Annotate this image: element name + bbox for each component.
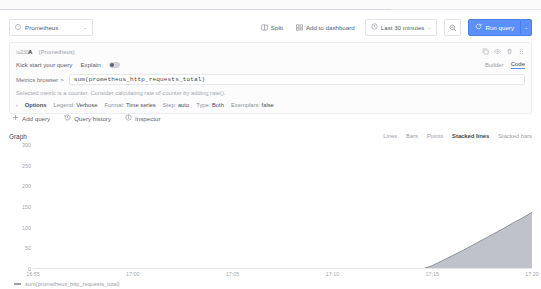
explain-toggle[interactable] xyxy=(109,62,120,68)
option-type-key: Type: xyxy=(196,102,210,108)
hide-query-icon[interactable] xyxy=(494,48,501,55)
add-to-dashboard-label: Add to dashboard xyxy=(306,24,355,31)
query-header-row: \u2304 A (Prometheus) xyxy=(16,47,525,56)
option-type-value: Both xyxy=(212,102,224,108)
add-query-label: Add query xyxy=(22,115,50,122)
y-axis-tick: 250 xyxy=(22,163,31,169)
option-step: Step: auto xyxy=(163,102,189,108)
clock-icon xyxy=(371,23,378,31)
tab-code[interactable]: Code xyxy=(511,61,525,69)
zoom-out-button[interactable] xyxy=(444,19,461,36)
run-query-label: Run query xyxy=(485,24,514,31)
query-datasource-label: (Prometheus) xyxy=(38,49,74,55)
option-exemplars-value: false xyxy=(262,102,274,108)
inspector-button[interactable]: Inspector xyxy=(125,114,160,122)
y-axis-tick: 100 xyxy=(22,225,31,231)
metrics-browser-button[interactable]: Metrics browser > xyxy=(16,74,64,85)
options-toggle-label[interactable]: Options xyxy=(25,102,47,108)
run-query-group: Run query ⌄ xyxy=(468,19,532,36)
x-axis-tick: 16:55 xyxy=(26,271,40,277)
query-expression-row: Metrics browser > sum(prometheus_http_re… xyxy=(16,74,525,85)
chevron-down-icon: ⌄ xyxy=(524,24,528,30)
split-icon xyxy=(261,24,268,31)
chevron-down-icon: ⌄ xyxy=(427,24,431,30)
dashboard-icon xyxy=(296,24,303,31)
datasource-picker[interactable]: Prometheus ⌄ xyxy=(9,19,93,36)
query-actions-row: Add query Query history Inspector xyxy=(12,114,160,122)
explore-page: Prometheus ⌄ Split Add to xyxy=(0,0,541,289)
chevron-right-icon: > xyxy=(60,77,64,83)
drag-handle-icon[interactable] xyxy=(518,48,525,55)
x-axis-tick: 17:20 xyxy=(525,271,539,277)
duplicate-query-icon[interactable] xyxy=(482,48,489,55)
plus-icon xyxy=(12,114,19,122)
option-format-key: Format: xyxy=(104,102,124,108)
chrome-accent-line xyxy=(0,9,390,10)
query-history-label: Query history xyxy=(74,115,111,122)
display-mode-stacked-lines[interactable]: Stacked lines xyxy=(452,133,489,139)
editor-mode-tabs: Builder Code xyxy=(485,61,525,69)
graph-plot-area: 300250200150100500 xyxy=(9,145,532,269)
info-icon xyxy=(125,114,132,122)
option-type: Type: Both xyxy=(196,102,224,108)
option-exemplars: Exemplars: false xyxy=(231,102,274,108)
history-icon xyxy=(64,114,71,122)
refresh-icon xyxy=(475,23,482,31)
option-step-key: Step: xyxy=(163,102,177,108)
x-axis-tick: 17:15 xyxy=(425,271,439,277)
graph-legend[interactable]: sum(prometheus_http_requests_total) xyxy=(14,281,532,287)
datasource-name: Prometheus xyxy=(25,24,58,31)
query-mode-row: Kick start your query Explain Builder Co… xyxy=(16,60,525,69)
y-axis-tick: 150 xyxy=(22,204,31,210)
option-legend-key: Legend: xyxy=(54,102,75,108)
query-hint-text: Selected metric is a counter. Consider c… xyxy=(16,90,525,96)
explain-label: Explain xyxy=(80,61,100,68)
time-range-label: Last 30 minutes xyxy=(381,24,425,31)
display-mode-points[interactable]: Points xyxy=(427,133,443,139)
delete-query-icon[interactable] xyxy=(506,48,513,55)
chevron-down-icon: ⌄ xyxy=(83,24,87,30)
add-to-dashboard-button[interactable]: Add to dashboard xyxy=(293,22,358,33)
collapse-chevron-icon[interactable]: \u2304 xyxy=(16,49,22,55)
y-axis-tick: 300 xyxy=(22,142,31,148)
query-editor-card: \u2304 A (Prometheus) xyxy=(9,42,532,114)
run-query-interval-dropdown[interactable]: ⌄ xyxy=(521,19,532,36)
run-query-button[interactable]: Run query xyxy=(468,19,521,36)
option-format: Format: Time series xyxy=(104,102,155,108)
add-query-button[interactable]: Add query xyxy=(12,114,50,122)
y-axis-tick: 50 xyxy=(25,245,31,251)
x-axis-tick: 17:05 xyxy=(226,271,240,277)
prometheus-icon xyxy=(15,24,21,30)
kick-start-query-button[interactable]: Kick start your query xyxy=(16,61,72,68)
stacked-area-series xyxy=(33,145,532,269)
time-range-picker[interactable]: Last 30 minutes ⌄ xyxy=(365,19,438,36)
graph-display-mode-group: Lines Bars Points Stacked lines Stacked … xyxy=(383,133,532,139)
query-history-button[interactable]: Query history xyxy=(64,114,111,122)
option-format-value: Time series xyxy=(126,102,156,108)
legend-color-swatch xyxy=(14,283,21,285)
display-mode-lines[interactable]: Lines xyxy=(383,133,397,139)
graph-panel-title: Graph xyxy=(9,133,27,140)
promql-expression-input[interactable]: sum(prometheus_http_requests_total) xyxy=(69,74,525,85)
explore-toolbar: Prometheus ⌄ Split Add to xyxy=(0,14,541,40)
options-chevron-icon[interactable]: › xyxy=(16,102,18,108)
x-axis-tick: 17:00 xyxy=(126,271,140,277)
split-button[interactable]: Split xyxy=(258,22,286,33)
zoom-out-icon xyxy=(449,18,457,36)
x-axis: 16:5517:0017:0517:1017:1517:20 xyxy=(33,269,532,280)
display-mode-bars[interactable]: Bars xyxy=(406,133,418,139)
graph-panel-header: Graph Lines Bars Points Stacked lines St… xyxy=(9,130,532,142)
legend-series-label: sum(prometheus_http_requests_total) xyxy=(25,281,120,287)
toolbar-right-group: Split Add to dashboard Last 30 minu xyxy=(258,19,532,36)
x-axis-tick: 17:10 xyxy=(326,271,340,277)
series-canvas[interactable] xyxy=(33,145,532,269)
option-legend-value: Verbose xyxy=(76,102,97,108)
tab-builder[interactable]: Builder xyxy=(485,62,504,68)
metrics-browser-label: Metrics browser xyxy=(16,77,58,83)
option-step-value: auto xyxy=(178,102,189,108)
y-axis: 300250200150100500 xyxy=(9,145,33,269)
inspector-label: Inspector xyxy=(135,115,160,122)
display-mode-stacked-bars[interactable]: Stacked bars xyxy=(498,133,532,139)
y-axis-tick: 200 xyxy=(22,183,31,189)
query-options-row: › Options Legend: Verbose Format: Time s… xyxy=(16,102,525,108)
